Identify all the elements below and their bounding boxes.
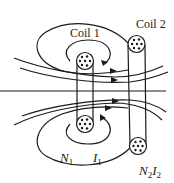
coil2-top-section (128, 36, 145, 53)
coil2-right-side (145, 45, 146, 146)
coil1-bottom-section (77, 116, 94, 133)
coil1-label: Coil 1 (70, 26, 100, 40)
arrow-icon (105, 105, 112, 111)
coil2-left-side (128, 45, 130, 146)
arrow-icon (110, 68, 117, 74)
coil1-top-section (77, 53, 94, 70)
coil2-label: Coil 2 (136, 17, 166, 31)
i1-label: I1 (92, 150, 102, 167)
n1-label: N1 (59, 150, 73, 167)
two-coil-diagram: Coil 1 Coil 2 N1 I1 N2I2 (0, 0, 174, 183)
n2-i2-label: N2I2 (138, 163, 161, 180)
coil2-bottom-section (130, 138, 147, 155)
